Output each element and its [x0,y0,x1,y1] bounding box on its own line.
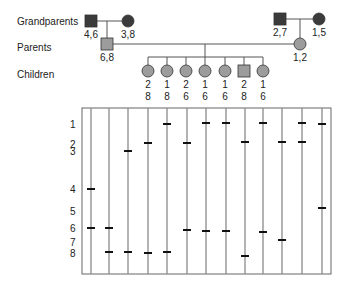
dna-band [87,227,95,229]
paternal-grandfather-square-symbol [85,15,97,27]
child-circle-symbol [180,65,192,77]
band-position-label: 1 [70,119,76,130]
dna-band [163,251,171,253]
child-allele-bottom: 6 [222,91,228,102]
child-circle-symbol [257,65,269,77]
dna-band [87,188,95,190]
grandparents-label: Grandparents [17,16,78,27]
dna-band [278,239,286,241]
maternal-grandfather-genotype: 2,7 [273,27,287,38]
paternal-grandmother-circle-symbol [122,15,134,27]
dna-band [105,227,113,229]
dna-band [105,251,113,253]
dna-band [222,230,230,232]
band-position-label: 8 [70,248,76,259]
child-allele-top: 1 [222,79,228,90]
gel-electrophoresis: 12345678 [70,108,331,274]
dna-band [144,142,152,144]
child-allele-bottom: 8 [145,91,151,102]
paternal-grandfather-genotype: 4,6 [84,29,98,40]
child-allele-top: 1 [202,79,208,90]
dna-band [144,252,152,254]
dna-band [241,141,249,143]
band-position-label: 3 [70,146,76,157]
dna-band [259,122,267,124]
children-label: Children [17,69,54,80]
child-circle-symbol [199,65,211,77]
child-circle-symbol [142,65,154,77]
dna-band [183,142,191,144]
band-position-label: 7 [70,237,76,248]
dna-band [278,141,286,143]
father-genotype: 6,8 [100,52,114,63]
child-allele-bottom: 8 [241,91,247,102]
mother-genotype: 1,2 [293,52,307,63]
dna-band [163,123,171,125]
child-allele-top: 2 [145,79,151,90]
dna-band [298,141,306,143]
child-allele-top: 2 [241,79,247,90]
child-allele-top: 1 [164,79,170,90]
band-position-label: 4 [70,184,76,195]
child-circle-symbol [219,65,231,77]
child-square-symbol [238,65,250,77]
dna-band [124,251,132,253]
parents-label: Parents [17,42,51,53]
dna-band [124,150,132,152]
dna-band [318,123,326,125]
maternal-grandmother-circle-symbol [313,13,325,25]
band-position-label: 6 [70,223,76,234]
dna-band [259,231,267,233]
child-allele-bottom: 8 [164,91,170,102]
dna-band [202,122,210,124]
pedigree-gel-figure: Grandparents Parents Children 4,63,86,82… [0,0,346,285]
child-allele-top: 2 [183,79,189,90]
maternal-grandfather-square-symbol [274,13,286,25]
child-allele-bottom: 6 [260,91,266,102]
dna-band [222,122,230,124]
dna-band [241,255,249,257]
dna-band [202,230,210,232]
pedigree-chart: 4,63,86,82,71,51,228182616162816 [84,13,326,102]
band-position-label: 5 [70,206,76,217]
child-allele-top: 1 [260,79,266,90]
figure-canvas: Grandparents Parents Children 4,63,86,82… [0,0,346,285]
child-allele-bottom: 6 [183,91,189,102]
dna-band [183,229,191,231]
father-square-symbol [101,38,113,50]
child-circle-symbol [161,65,173,77]
paternal-grandmother-genotype: 3,8 [121,29,135,40]
dna-band [318,207,326,209]
dna-band [298,122,306,124]
mother-circle-symbol [294,38,306,50]
child-allele-bottom: 6 [202,91,208,102]
maternal-grandmother-genotype: 1,5 [312,27,326,38]
